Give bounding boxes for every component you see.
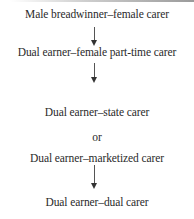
down-arrow-icon <box>93 165 96 189</box>
alternative-or-label: or <box>0 130 194 144</box>
down-arrow-icon <box>93 63 96 83</box>
node-dual-earner-state-carer: Dual earner–state carer <box>0 105 194 119</box>
scan-edge-line <box>10 0 194 2</box>
node-male-breadwinner-female-carer: Male breadwinner–female carer <box>0 7 194 21</box>
down-arrow-icon <box>93 27 96 46</box>
node-dual-earner-marketized-carer: Dual earner–marketized carer <box>0 151 194 165</box>
node-dual-earner-dual-carer: Dual earner–dual carer <box>0 195 194 209</box>
node-dual-earner-female-part-time-carer: Dual earner–female part-time carer <box>0 45 194 59</box>
